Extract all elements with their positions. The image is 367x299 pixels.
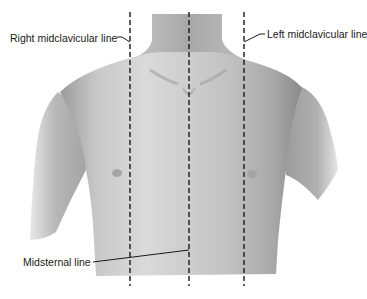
right-midclavicular-leader xyxy=(117,37,130,42)
right-nipple xyxy=(112,169,122,177)
left-midclavicular-label: Left midclavicular line xyxy=(267,28,367,40)
torso xyxy=(60,52,302,276)
left-nipple xyxy=(247,170,257,178)
right-midclavicular-label: Right midclavicular line xyxy=(10,32,117,44)
midsternal-label: Midsternal line xyxy=(23,256,91,268)
left-midclavicular-leader xyxy=(244,34,265,42)
